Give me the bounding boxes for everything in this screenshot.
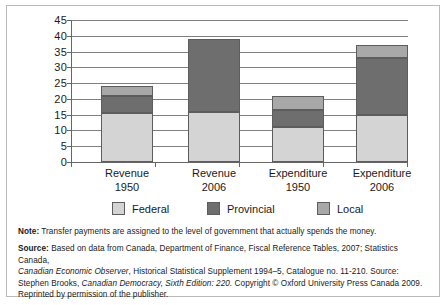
- bar-segment-federal: [101, 113, 153, 162]
- bar-group-expenditure-2006[interactable]: [356, 20, 408, 162]
- bar-stack: [101, 86, 153, 162]
- bar-segment-local: [101, 86, 153, 96]
- legend-item-provincial[interactable]: Provincial: [207, 202, 275, 215]
- bar-segment-provincial: [188, 39, 240, 112]
- y-tick-label: 25: [54, 77, 67, 89]
- plot-area: 45 40 35 30 25 20 15 10 5 0: [71, 20, 408, 162]
- x-axis-label-line1: Expenditure: [340, 166, 424, 180]
- bar-group-expenditure-1950[interactable]: [272, 20, 324, 162]
- caption-source-line-2: Canadian Economic Observer, Historical S…: [18, 266, 430, 277]
- x-axis-label-expenditure-1950: Expenditure 1950: [256, 166, 340, 194]
- legend-label-provincial: Provincial: [227, 203, 275, 215]
- bar-segment-federal: [356, 115, 408, 162]
- x-axis-label-expenditure-2006: Expenditure 2006: [340, 166, 424, 194]
- caption-source-author: Stephen Brooks,: [18, 279, 82, 288]
- y-tick-label: 30: [54, 61, 67, 73]
- bar-segment-local: [272, 96, 324, 110]
- x-axis-labels: Revenue 1950 Revenue 2006 Expenditure 19…: [71, 166, 408, 198]
- legend-item-local[interactable]: Local: [317, 202, 363, 215]
- x-axis-label-line1: Revenue: [172, 166, 256, 180]
- x-axis-label-line2: 1950: [85, 180, 169, 194]
- caption-source-italic-title: Canadian Economic Observer: [18, 267, 129, 276]
- legend-label-local: Local: [337, 203, 363, 215]
- y-tick-label: 10: [54, 124, 67, 136]
- bar-stack: [272, 96, 324, 162]
- y-tick-label: 40: [54, 30, 67, 42]
- bar-group-revenue-2006[interactable]: [188, 20, 240, 162]
- x-axis-label-line1: Expenditure: [256, 166, 340, 180]
- bars-layer: [71, 20, 408, 162]
- figure-caption: Note: Transfer payments are assigned to …: [18, 226, 430, 300]
- bar-segment-provincial: [101, 96, 153, 113]
- x-axis-label-line2: 2006: [340, 180, 424, 194]
- bar-segment-local: [356, 45, 408, 58]
- caption-source-copyright: Copyright © Oxford University Press Cana…: [232, 279, 422, 288]
- caption-source-line-4: Reprinted by permission of the publisher…: [18, 289, 430, 300]
- x-axis-label-revenue-2006: Revenue 2006: [172, 166, 256, 194]
- y-axis-tick-labels: 45 40 35 30 25 20 15 10 5 0: [37, 20, 67, 162]
- chart-area: 45 40 35 30 25 20 15 10 5 0: [7, 6, 439, 221]
- y-tick-label: 15: [54, 109, 67, 121]
- caption-source-lead: Source:: [18, 244, 49, 253]
- caption-source-line-3: Stephen Brooks, Canadian Democracy, Sixt…: [18, 278, 430, 289]
- x-axis-label-revenue-1950: Revenue 1950: [85, 166, 169, 194]
- x-axis-label-line2: 1950: [256, 180, 340, 194]
- bar-segment-federal: [272, 127, 324, 162]
- bar-group-revenue-1950[interactable]: [101, 20, 153, 162]
- caption-note-text: Transfer payments are assigned to the le…: [39, 227, 376, 236]
- caption-source-text: , Historical Statistical Supplement 1994…: [129, 267, 399, 276]
- legend-swatch-federal-icon: [112, 202, 125, 215]
- bar-stack: [188, 39, 240, 162]
- caption-note-lead: Note:: [18, 227, 39, 236]
- y-tick-label: 20: [54, 93, 67, 105]
- bar-segment-provincial: [356, 58, 408, 115]
- bar-stack: [356, 45, 408, 162]
- y-tick-label: 45: [54, 14, 67, 26]
- caption-source-italic-book: Canadian Democracy, Sixth Edition: 220.: [82, 279, 233, 288]
- legend-swatch-provincial-icon: [207, 202, 220, 215]
- caption-source-text: Based on data from Canada, Department of…: [18, 244, 398, 264]
- legend-item-federal[interactable]: Federal: [112, 202, 169, 215]
- legend-swatch-local-icon: [317, 202, 330, 215]
- x-axis-label-line2: 2006: [172, 180, 256, 194]
- bar-segment-federal: [188, 112, 240, 163]
- x-axis-label-line1: Revenue: [85, 166, 169, 180]
- caption-source-line-1: Source: Based on data from Canada, Depar…: [18, 243, 430, 266]
- caption-note: Note: Transfer payments are assigned to …: [18, 226, 430, 237]
- legend-label-federal: Federal: [132, 203, 169, 215]
- y-tick-label: 35: [54, 46, 67, 58]
- bar-segment-provincial: [272, 110, 324, 127]
- chart-legend: Federal Provincial Local: [7, 202, 439, 220]
- figure-frame: 45 40 35 30 25 20 15 10 5 0: [6, 5, 440, 297]
